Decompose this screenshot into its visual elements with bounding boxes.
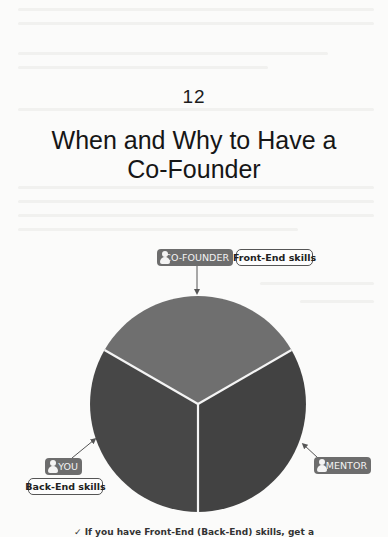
cofounder-tag: CO-FOUNDER [157,249,233,266]
arrow-mentor [304,445,318,458]
figure-caption: ✓ If you have Front-End (Back-End) skill… [0,527,388,537]
back-end-skills-box: Back-End skills [28,478,103,495]
cofounder-label: CO-FOUNDER [164,252,229,263]
person-icon [160,251,161,264]
you-tag: YOU [45,458,82,475]
mentor-tag: MENTOR [314,457,371,474]
mentor-label: MENTOR [326,460,367,471]
person-icon [48,460,55,473]
you-label: YOU [58,461,78,472]
front-end-skills-box: Front-End skills [236,249,313,266]
arrow-you [72,440,94,458]
person-icon [317,459,323,472]
